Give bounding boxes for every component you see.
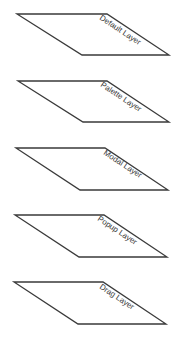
layer-plane-shape: [15, 215, 167, 257]
layer-plane-shape: [16, 148, 168, 190]
layer-modal: Modal Layer: [16, 148, 168, 190]
layer-stack-diagram: Default Layer Palette Layer Modal Layer …: [0, 0, 179, 341]
layer-drag: Drag Layer: [14, 282, 166, 324]
layer-palette: Palette Layer: [18, 80, 169, 122]
layer-plane-shape: [17, 14, 169, 55]
layer-plane-shape: [14, 282, 166, 324]
layer-popup: Popup Layer: [15, 214, 167, 257]
layer-default: Default Layer: [17, 13, 169, 55]
layer-plane-shape: [18, 81, 169, 122]
